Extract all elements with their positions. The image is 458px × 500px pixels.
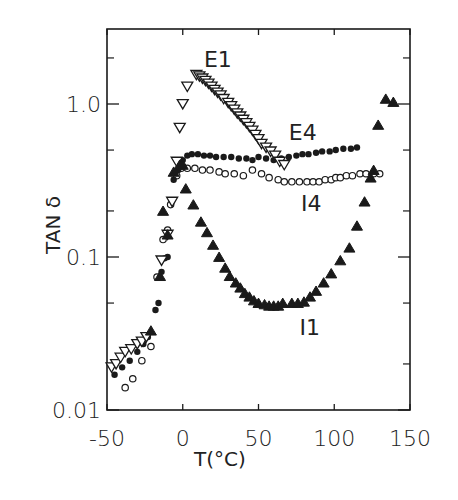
plot-frame [107,29,410,410]
tan-delta-chart: -50050100150 0.010.11.0 E1E4I4I1 T(°C) T… [0,0,458,500]
x-tick-labels: -50050100150 [89,426,431,451]
y-tick-labels: 0.010.11.0 [52,92,101,423]
x-tick-label: 100 [313,426,355,451]
y-tick-label: 0.1 [66,245,101,270]
x-axis-title: T(°C) [193,447,246,471]
x-tick-label: 50 [245,426,273,451]
axis-ticks [107,29,410,410]
y-tick-label: 0.01 [52,398,101,423]
series-label-i4: I4 [301,191,322,216]
x-tick-label: -50 [89,426,125,451]
y-axis-title: TAN δ [41,196,65,255]
y-tick-label: 1.0 [66,92,101,117]
series-i1 [145,94,398,335]
series-label-e1: E1 [204,47,232,72]
data-series [106,70,399,390]
series-label-i1: I1 [299,315,320,340]
series-label-e4: E4 [289,120,317,145]
x-tick-label: 150 [389,426,431,451]
x-tick-label: 0 [176,426,190,451]
